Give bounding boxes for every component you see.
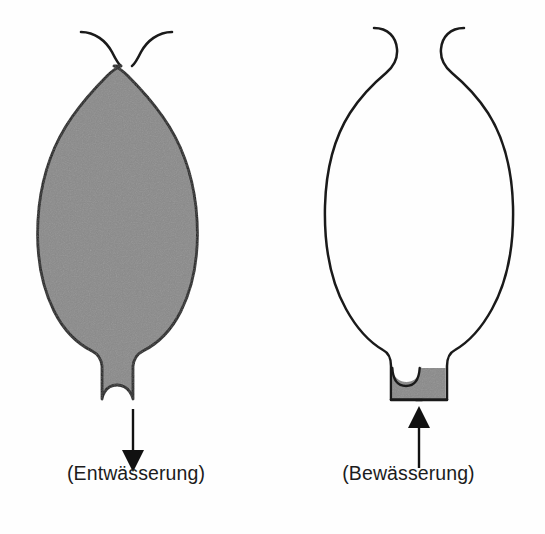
diagram-canvas <box>0 0 545 534</box>
caption-left-drainage: (Entwässerung) <box>0 462 272 485</box>
up-arrow-head <box>408 406 430 428</box>
caption-right-irrigation: (Bewässerung) <box>272 462 545 485</box>
bladder-wall-right-right-panel <box>416 28 513 400</box>
bladder-body-left <box>38 66 198 399</box>
horn-left-outer-left <box>81 32 121 66</box>
figure-root: (Entwässerung) (Bewässerung) <box>0 0 545 534</box>
bladder-wall-left-right-panel <box>325 28 422 400</box>
panel-left-drainage <box>38 32 198 472</box>
horn-left-outer-right <box>132 32 172 66</box>
panel-right-irrigation <box>325 28 513 468</box>
